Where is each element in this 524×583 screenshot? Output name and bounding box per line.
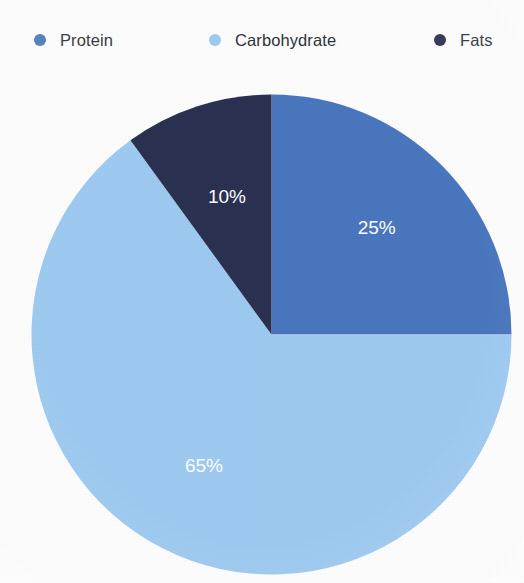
legend-item-protein[interactable]: Protein	[34, 26, 113, 54]
legend-label-carbohydrate: Carbohydrate	[235, 31, 336, 50]
pie-plot-area: 25% 65% 10%	[31, 94, 512, 575]
legend-label-protein: Protein	[60, 31, 113, 50]
pie-slice-protein[interactable]	[272, 95, 512, 335]
pie-label-fats: 10%	[208, 186, 246, 207]
legend-dot-icon-fats	[434, 34, 446, 46]
chart-legend: Protein Carbohydrate Fats	[0, 26, 524, 54]
legend-item-fats[interactable]: Fats	[434, 26, 493, 54]
legend-label-fats: Fats	[460, 31, 493, 50]
legend-dot-icon-protein	[34, 34, 46, 46]
pie-label-protein: 25%	[358, 217, 396, 238]
pie-slices	[32, 95, 512, 575]
pie-label-carbohydrate: 65%	[185, 455, 223, 476]
pie-svg: 25% 65% 10%	[31, 94, 512, 575]
pie-chart-figure: Protein Carbohydrate Fats 25% 65% 10%	[0, 0, 524, 583]
legend-dot-icon-carbohydrate	[209, 34, 221, 46]
legend-item-carbohydrate[interactable]: Carbohydrate	[209, 26, 336, 54]
